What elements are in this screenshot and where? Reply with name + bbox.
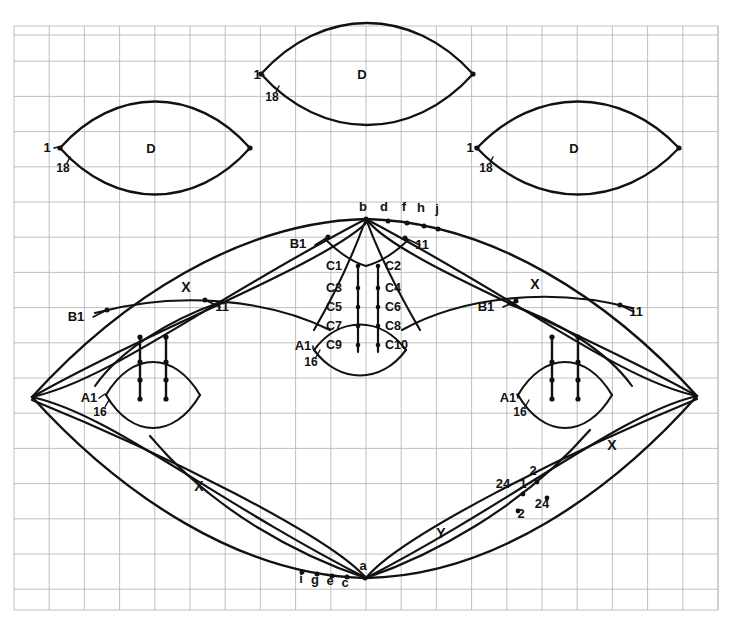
- lens-top-center-lower-arc: [261, 74, 473, 125]
- crossing-2-lower: 2: [517, 506, 524, 521]
- lens-top-center-upper-arc: [261, 23, 473, 74]
- leader-b1-right-text: B1: [478, 299, 495, 314]
- leader-b1-center-dot: [326, 235, 331, 240]
- rail-node-right-1-3: [549, 377, 554, 382]
- lens-small-right-a1-leader: [517, 394, 518, 398]
- point-dot-e: [330, 574, 335, 579]
- center-dot-C1: [356, 264, 361, 269]
- center-dot-C9: [356, 343, 361, 348]
- leader-11-right-dot: [618, 303, 623, 308]
- lens-small-left-a1-leader: [99, 394, 105, 398]
- leader-11-center-dot: [403, 236, 408, 241]
- rail-node-right-2-4: [575, 396, 580, 401]
- center-label-C6: C6: [385, 300, 401, 314]
- point-label-a: a: [359, 558, 367, 573]
- point-label-d: d: [380, 199, 388, 214]
- point-dot-c: [345, 575, 350, 580]
- center-label-C10: C10: [385, 338, 408, 352]
- center-label-C4: C4: [385, 281, 401, 295]
- crossing-2-lower-dot: [516, 509, 521, 514]
- label-x-upper-left: X: [181, 279, 191, 295]
- lens-small-right-lower-arc: [518, 395, 612, 428]
- lens-top-left-left-vertex: [57, 145, 62, 150]
- point-dot-f: [405, 221, 410, 226]
- leader-11-left-dot: [203, 298, 208, 303]
- lens-top-right-label: D: [569, 141, 578, 156]
- crossing-2-upper-dot: [535, 480, 540, 485]
- point-label-h: h: [417, 200, 425, 215]
- lens-small-right-upper-arc: [518, 362, 612, 395]
- crossing-1: 1: [519, 476, 526, 491]
- lens-small-left-upper-arc: [106, 362, 200, 395]
- leader-b1-right-dot: [514, 299, 519, 304]
- rail-node-left-1-3: [137, 377, 142, 382]
- crossing-24-left: 24: [496, 476, 511, 491]
- lens-small-left-a1-label: A1: [81, 390, 98, 405]
- center-dot-C5: [356, 305, 361, 310]
- center-label-C5: C5: [326, 300, 342, 314]
- lens-top-right-right-vertex: [676, 145, 681, 150]
- lens-top-right-left-leader: [475, 147, 477, 148]
- center-dot-C7: [356, 324, 361, 329]
- leader-b1-left-dot: [105, 308, 110, 313]
- leader-11-right-text: 11: [629, 304, 643, 319]
- center-dot-C6: [376, 305, 381, 310]
- point-dot-j: [436, 227, 441, 232]
- rail-node-right-2-2: [575, 359, 580, 364]
- rail-node-left-1-4: [137, 396, 142, 401]
- lens-top-center-arc-number: 18: [265, 90, 279, 104]
- lens-top-center-right-vertex: [470, 71, 475, 76]
- lens-small-right-a1-label: A1: [500, 390, 517, 405]
- label-x-upper-right: X: [530, 276, 540, 292]
- point-dot-a: [363, 576, 368, 581]
- rail-node-left-2-3: [163, 377, 168, 382]
- rail-node-left-1-1: [137, 334, 142, 339]
- lens-top-left-arc-number: 18: [56, 161, 70, 175]
- center-label-C7: C7: [326, 319, 342, 333]
- lens-top-left-label: D: [146, 141, 155, 156]
- center-label-C3: C3: [326, 281, 342, 295]
- crossing-2-upper: 2: [529, 463, 536, 478]
- eleven-arc-left: [95, 303, 218, 386]
- diagram-canvas: D118D118D118A116A116A116C1C2C3C4C5C6C7C8…: [0, 0, 740, 642]
- center-label-C9: C9: [326, 338, 342, 352]
- lens-top-center-label: D: [357, 67, 366, 82]
- rail-node-left-2-2: [163, 359, 168, 364]
- lens-small-left-lower-arc: [106, 395, 200, 428]
- label-y-bottom: Y: [436, 525, 446, 541]
- lens-top-right-left-number: 1: [466, 140, 473, 155]
- center-dot-C2: [376, 264, 381, 269]
- center-dot-C4: [376, 286, 381, 291]
- point-dot-d: [386, 219, 391, 224]
- center-label-C8: C8: [385, 319, 401, 333]
- rail-node-left-1-2: [137, 359, 142, 364]
- point-dot-g: [315, 572, 320, 577]
- rail-node-left-2-4: [163, 396, 168, 401]
- point-dot-b: [364, 217, 369, 222]
- crossing-24-left-dot: [521, 492, 526, 497]
- point-label-j: j: [434, 201, 439, 216]
- leader-b1-center-text: B1: [290, 236, 307, 251]
- lens-top-left-left-number: 1: [43, 140, 50, 155]
- center-label-C1: C1: [326, 259, 342, 273]
- rail-node-left-2-1: [163, 334, 168, 339]
- rail-node-right-2-3: [575, 377, 580, 382]
- lens-small-center-lower-arc: [314, 350, 406, 376]
- center-dot-C3: [356, 286, 361, 291]
- lens-top-right-arc-number: 18: [479, 161, 493, 175]
- point-label-f: f: [402, 199, 407, 214]
- leader-b1-left-text: B1: [68, 309, 85, 324]
- point-label-b: b: [359, 199, 367, 214]
- rail-node-right-1-1: [549, 334, 554, 339]
- lens-small-left-16-leader: [105, 400, 109, 407]
- label-x-lower-left: X: [194, 478, 204, 494]
- point-dot-h: [422, 224, 427, 229]
- lens-small-center-a1-label: A1: [295, 338, 312, 353]
- label-x-lower-right: X: [607, 437, 617, 453]
- center-dot-C8: [376, 324, 381, 329]
- lens-small-right-16-leader: [525, 400, 529, 407]
- center-dot-C10: [376, 343, 381, 348]
- technical-diagram: D118D118D118A116A116A116C1C2C3C4C5C6C7C8…: [0, 0, 740, 642]
- rail-node-right-1-2: [549, 359, 554, 364]
- lens-top-left-left-leader: [54, 147, 58, 148]
